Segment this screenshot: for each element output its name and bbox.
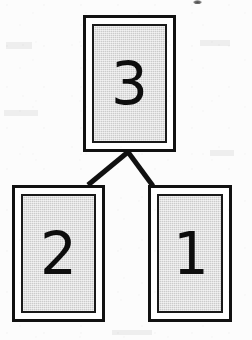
edge-root-to-right [128, 152, 153, 186]
tree-node-left-child[interactable]: 2 [12, 185, 105, 322]
tree-node-right-child-label: 1 [173, 225, 208, 283]
tree-node-root[interactable]: 3 [83, 15, 176, 152]
tree-node-right-child[interactable]: 1 [148, 185, 232, 322]
tree-node-root-fill: 3 [92, 24, 167, 143]
tree-node-left-child-fill: 2 [21, 194, 96, 313]
tree-node-right-child-fill: 1 [157, 194, 223, 313]
edge-root-to-left [88, 152, 128, 185]
tree-node-left-child-label: 2 [40, 225, 77, 283]
tree-node-root-label: 3 [111, 55, 148, 113]
tree-diagram-canvas: 3 2 1 [0, 0, 252, 340]
